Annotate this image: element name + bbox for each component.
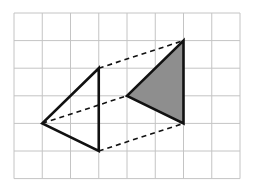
dashed-connector — [99, 123, 184, 151]
grid-figure — [0, 0, 254, 189]
translation-diagram — [0, 0, 254, 189]
